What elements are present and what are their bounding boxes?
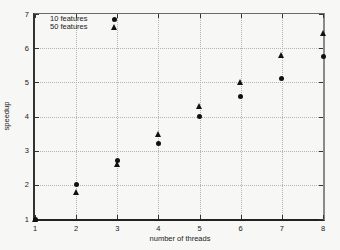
x-tick-label: 5 [190, 224, 210, 233]
y-tick-label: 7 [8, 10, 29, 19]
tick-mark [35, 82, 39, 83]
tick-mark [117, 14, 118, 18]
tick-mark [319, 185, 323, 186]
tick-mark [319, 117, 323, 118]
gridline [35, 117, 323, 118]
x-tick-label: 8 [313, 224, 333, 233]
legend-label: 50 features [50, 23, 88, 31]
tick-mark [319, 82, 323, 83]
tick-mark [319, 151, 323, 152]
data-point-triangle [155, 131, 161, 137]
x-axis-label: number of threads [119, 234, 241, 243]
x-tick-label: 7 [272, 224, 292, 233]
tick-mark [76, 215, 77, 219]
tick-mark [323, 215, 324, 219]
gridline [35, 48, 323, 49]
data-point-circle [156, 141, 161, 146]
tick-mark [319, 219, 323, 220]
x-tick-label: 4 [148, 224, 168, 233]
legend-marker-shape [112, 17, 117, 22]
y-tick-label: 3 [8, 146, 29, 155]
tick-mark [200, 215, 201, 219]
gridline [35, 151, 323, 152]
y-tick-label: 4 [8, 112, 29, 121]
plot-area [33, 13, 325, 221]
tick-mark [241, 215, 242, 219]
data-point-triangle [196, 103, 202, 109]
tick-mark [282, 14, 283, 18]
data-point-triangle [320, 30, 326, 36]
x-tick-label: 2 [66, 224, 86, 233]
tick-mark [241, 14, 242, 18]
y-tick-label: 2 [8, 180, 29, 189]
tick-mark [158, 14, 159, 18]
tick-mark [319, 48, 323, 49]
legend-marker-shape [111, 24, 117, 30]
x-tick-label: 6 [231, 224, 251, 233]
data-point-circle [321, 54, 326, 59]
y-tick-label: 1 [8, 215, 29, 224]
tick-mark [200, 14, 201, 18]
tick-mark [35, 14, 39, 15]
data-point-triangle [73, 189, 79, 195]
tick-mark [117, 215, 118, 219]
data-point-circle [33, 217, 38, 222]
x-tick-label: 1 [25, 224, 45, 233]
tick-mark [35, 151, 39, 152]
data-point-circle [197, 114, 202, 119]
tick-mark [282, 215, 283, 219]
data-point-circle [279, 76, 284, 81]
tick-mark [35, 185, 39, 186]
tick-mark [319, 14, 323, 15]
legend: 10 features50 features [46, 15, 88, 31]
tick-mark [323, 14, 324, 18]
data-point-triangle [278, 52, 284, 58]
legend-entry: 50 features [46, 23, 88, 31]
y-tick-label: 6 [8, 44, 29, 53]
data-point-circle [74, 182, 79, 187]
tick-mark [35, 117, 39, 118]
gridline [35, 82, 323, 83]
y-tick-label: 5 [8, 78, 29, 87]
data-point-triangle [237, 79, 243, 85]
x-tick-label: 3 [107, 224, 127, 233]
data-point-circle [238, 94, 243, 99]
speedup-chart: speedup number of threads 12345678123456… [0, 0, 340, 250]
tick-mark [35, 48, 39, 49]
tick-mark [158, 215, 159, 219]
